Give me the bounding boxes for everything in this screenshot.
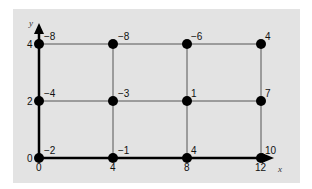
node-4-2: [108, 96, 118, 106]
node-value: 4: [265, 31, 271, 42]
node-value: 4: [191, 145, 197, 156]
node-value: 10: [265, 145, 277, 156]
grid-lines: [39, 44, 261, 158]
node-value: 7: [265, 88, 271, 99]
node-0-0: [34, 153, 44, 163]
axes: [39, 32, 265, 158]
node-value: 1: [191, 88, 197, 99]
node-0-2: [34, 96, 44, 106]
node-value: −8: [118, 31, 130, 42]
node-0-4: [34, 39, 44, 49]
y-axis-label: y: [28, 18, 33, 28]
y-tick-2: 2: [27, 96, 33, 107]
node-4-0: [108, 153, 118, 163]
node-value: −8: [44, 31, 56, 42]
node-4-4: [108, 39, 118, 49]
x-tick-8: 8: [184, 162, 190, 173]
node-value: −1: [118, 145, 130, 156]
x-tick-4: 4: [110, 162, 116, 173]
y-axis-arrow-icon: [34, 23, 44, 34]
y-tick-4: 4: [27, 39, 33, 50]
grid-diagram: x y 0 4 8 12 0 2 4 −8 −8 −6 4 −4 −3 1 7 …: [0, 0, 312, 189]
x-tick-12: 12: [255, 162, 267, 173]
x-axis-label: x: [277, 164, 282, 174]
node-value: −6: [191, 31, 203, 42]
node-value: −4: [44, 88, 56, 99]
node-value: −3: [118, 88, 130, 99]
node-value: −2: [44, 145, 56, 156]
y-tick-0: 0: [27, 153, 33, 164]
x-tick-0: 0: [36, 162, 42, 173]
